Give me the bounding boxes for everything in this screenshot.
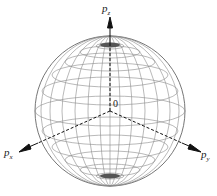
py-label: py — [201, 149, 210, 163]
pz-label: pz — [102, 3, 110, 17]
south-pole-cluster — [100, 174, 120, 179]
px-label: px — [4, 147, 13, 161]
sphere-diagram — [0, 0, 217, 196]
py-arrow-icon — [188, 144, 201, 152]
origin-label: 0 — [113, 98, 118, 109]
pz-arrow-icon — [108, 17, 113, 28]
px-arrow-icon — [19, 144, 31, 152]
